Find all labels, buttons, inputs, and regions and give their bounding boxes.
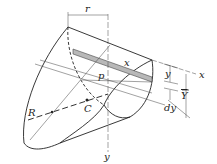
label-x-axis: x <box>199 69 205 80</box>
label-C: C <box>84 103 92 114</box>
centroid-axis <box>28 94 108 120</box>
label-dy: dy <box>164 102 176 113</box>
label-x-strip: x <box>124 57 130 68</box>
point-R <box>51 111 53 113</box>
label-y-axis: y <box>103 151 110 162</box>
label-Y-bar: Y <box>181 90 189 101</box>
solid-diagram: r x p y x Y dy R C y <box>0 0 217 164</box>
construction-line <box>82 80 152 82</box>
construction-line <box>40 60 152 93</box>
point-C <box>86 99 89 102</box>
label-y-dim: y <box>164 68 171 79</box>
label-R: R <box>27 107 36 118</box>
label-r: r <box>85 3 91 14</box>
shaded-strip <box>73 49 152 82</box>
construction-line <box>30 45 110 140</box>
label-p: p <box>98 70 105 81</box>
